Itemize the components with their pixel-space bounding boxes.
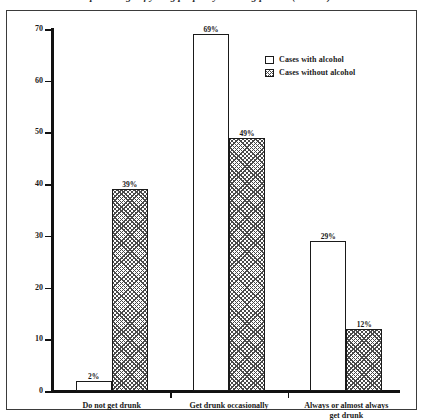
bar-value-label: 39% — [122, 180, 137, 189]
legend-item: Cases without alcohol — [265, 68, 355, 77]
value-axis-tick — [45, 391, 52, 393]
value-axis-tick-label: 0 — [9, 386, 43, 395]
bar: 12% — [346, 329, 382, 391]
legend-swatch-icon — [265, 69, 274, 77]
legend-item-label: Cases without alcohol — [279, 68, 355, 77]
value-axis-tick — [45, 81, 52, 83]
bar-value-label: 12% — [357, 320, 372, 329]
value-axis-tick-label: 30 — [9, 231, 43, 240]
value-axis-tick-label: 50 — [9, 127, 43, 136]
category-separator-tick — [170, 392, 171, 398]
bar: 49% — [229, 138, 265, 391]
category-label: Do not get drunk — [53, 401, 170, 411]
category-label: Always or almost always get drunk — [288, 401, 405, 420]
bar-value-label: 2% — [88, 372, 99, 381]
value-axis-tick — [45, 29, 52, 31]
bar-value-label: 29% — [321, 232, 336, 241]
clipped-figure-title: percentage of young people by drinking p… — [0, 0, 421, 4]
value-axis-tick-label: 60 — [9, 76, 43, 85]
value-axis-tick — [45, 339, 52, 341]
bar: 2% — [76, 381, 112, 391]
value-axis-tick-label: 20 — [9, 283, 43, 292]
figure-frame: 010203040506070 2%39%69%49%29%12% Do not… — [6, 10, 417, 410]
bar-value-label: 69% — [204, 25, 219, 34]
value-axis-tick — [45, 184, 52, 186]
bar: 29% — [310, 241, 346, 391]
value-axis-tick-label: 10 — [9, 334, 43, 343]
value-axis-tick-label: 40 — [9, 179, 43, 188]
bar: 69% — [193, 34, 229, 391]
bar-value-label: 49% — [240, 129, 255, 138]
value-axis-tick — [45, 288, 52, 290]
value-axis-tick — [45, 132, 52, 134]
value-axis-tick-label: 70 — [9, 24, 43, 33]
chart-legend: Cases with alcoholCases without alcohol — [265, 55, 355, 81]
plot-area: 2%39%69%49%29%12% — [53, 29, 405, 391]
category-separator-tick — [288, 392, 289, 398]
value-axis-tick — [45, 236, 52, 238]
legend-item-label: Cases with alcohol — [279, 55, 344, 64]
legend-item: Cases with alcohol — [265, 55, 355, 64]
bar: 39% — [112, 189, 148, 391]
legend-swatch-icon — [265, 56, 274, 64]
category-label: Get drunk occasionally — [170, 401, 287, 411]
